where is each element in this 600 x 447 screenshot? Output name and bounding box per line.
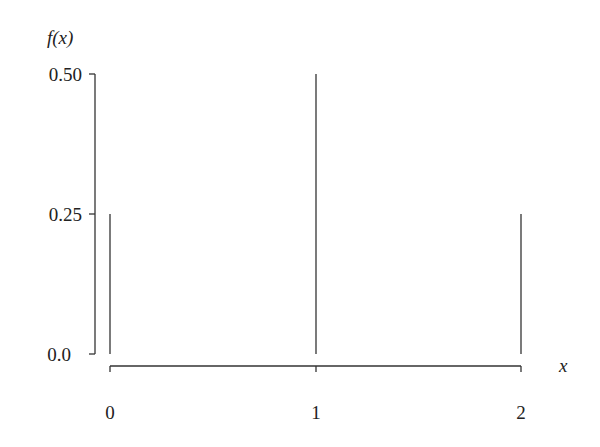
- y-axis-label: f(x): [47, 27, 73, 49]
- pmf-spikes: [110, 74, 521, 354]
- ytick-label-025: 0.25: [49, 204, 82, 225]
- xtick-label-1: 1: [311, 402, 321, 423]
- xtick-label-0: 0: [105, 402, 115, 423]
- ytick-label-000: 0.0: [47, 344, 71, 365]
- ytick-label-050: 0.50: [49, 64, 82, 85]
- pmf-chart: f(x) 0.50 0.25 0.0 x 0 1 2: [0, 0, 600, 447]
- x-axis: [110, 366, 521, 372]
- y-axis: [89, 74, 95, 354]
- x-axis-label: x: [558, 355, 568, 376]
- xtick-label-2: 2: [516, 402, 526, 423]
